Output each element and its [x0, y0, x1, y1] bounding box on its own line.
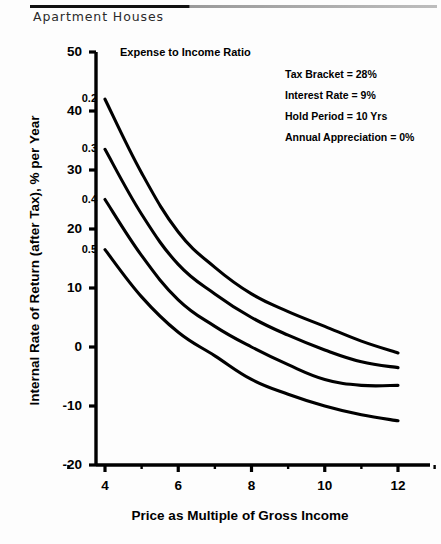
y-tick-label: 50: [36, 45, 82, 59]
x-tick-label: 6: [158, 479, 198, 493]
chart-series-group: [105, 99, 398, 421]
annotation-line: Tax Bracket = 28%: [285, 68, 377, 80]
x-tick-label: 10: [305, 479, 345, 493]
series-label-0.4: 0.4: [63, 194, 97, 205]
y-tick-label: -10: [36, 399, 82, 413]
y-tick-label: 20: [36, 222, 82, 236]
x-tick-label: 4: [85, 479, 125, 493]
y-tick-label: 40: [36, 104, 82, 118]
y-tick-label: -20: [36, 458, 82, 472]
x-tick-label: 12: [378, 479, 418, 493]
annotation-line: Hold Period = 10 Yrs: [285, 110, 387, 122]
annotation-line: Annual Appreciation = 0%: [285, 131, 414, 143]
legend-title: Expense to Income Ratio: [120, 46, 251, 58]
y-tick-label: 30: [36, 163, 82, 177]
x-tick-label: 8: [232, 479, 272, 493]
series-label-0.2: 0.2: [63, 93, 97, 104]
annotation-line: Interest Rate = 9%: [285, 89, 376, 101]
chart-page: Apartment Houses Internal Rate of Return…: [0, 0, 441, 544]
series-label-0.5: 0.5: [63, 244, 97, 255]
x-axis-title: Price as Multiple of Gross Income: [60, 508, 420, 523]
series-label-0.3: 0.3: [63, 143, 97, 154]
chart-line-0.3: [105, 149, 398, 367]
chart-line-0.5: [105, 250, 398, 421]
y-tick-label: 0: [36, 340, 82, 354]
y-tick-label: 10: [36, 281, 82, 295]
y-axis-title: Internal Rate of Return (after Tax), % p…: [27, 96, 42, 426]
